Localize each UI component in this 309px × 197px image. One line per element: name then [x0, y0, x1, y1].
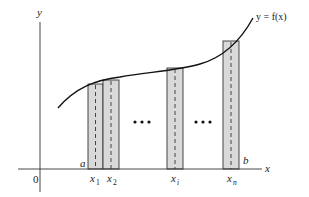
sample-point-label-i: x i	[170, 172, 179, 187]
sample-point-base: x	[226, 172, 232, 184]
y-axis-label: y	[36, 6, 42, 18]
sample-point-sub: 2	[113, 178, 117, 187]
sample-point-base: x	[106, 172, 112, 184]
interval-end-label: b	[243, 154, 249, 166]
sample-point-sub: n	[233, 178, 237, 187]
sample-point-sub: i	[177, 178, 179, 187]
sample-point-label-n: x n	[226, 172, 237, 187]
riemann-sum-diagram: y x 0 y = f(x) a b x 1 x 2 x i x n	[0, 0, 309, 197]
sample-point-base: x	[89, 172, 95, 184]
x-axis-label: x	[264, 162, 270, 174]
ellipsis-left	[133, 120, 150, 123]
sample-point-label-2: x 2	[106, 172, 117, 187]
origin-label: 0	[33, 173, 39, 185]
curve-label: y = f(x)	[256, 11, 287, 23]
sample-point-label-1: x 1	[89, 172, 100, 187]
sample-point-base: x	[170, 172, 176, 184]
interval-start-label: a	[80, 157, 86, 169]
sample-point-sub: 1	[96, 178, 100, 187]
ellipsis-right	[194, 120, 211, 123]
